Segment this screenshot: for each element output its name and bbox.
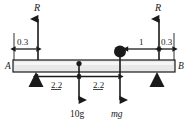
load-10g-label: 10g bbox=[70, 109, 85, 119]
dim-support-to-dot-label: 2.2 bbox=[51, 80, 62, 90]
beam-diagram: A B R R 10g mg 0.3 1 0.3 2.2 2.2 bbox=[0, 0, 191, 120]
support-right bbox=[150, 72, 165, 87]
dim-dot-to-circle-label: 2.2 bbox=[93, 80, 104, 90]
beam bbox=[13, 60, 175, 72]
reaction-left-label: R bbox=[33, 2, 40, 13]
point-mass-small bbox=[76, 61, 81, 66]
dim-left-overhang-label: 0.3 bbox=[17, 37, 29, 47]
reaction-right-label: R bbox=[154, 2, 161, 13]
point-mass-large bbox=[114, 46, 126, 58]
dim-circle-to-r-label: 1 bbox=[139, 37, 144, 47]
beam-label-b: B bbox=[178, 61, 184, 71]
load-mg-label: mg bbox=[111, 109, 123, 119]
beam-label-a: A bbox=[4, 61, 11, 71]
dim-right-overhang-label: 0.3 bbox=[161, 37, 173, 47]
support-left bbox=[29, 72, 44, 87]
